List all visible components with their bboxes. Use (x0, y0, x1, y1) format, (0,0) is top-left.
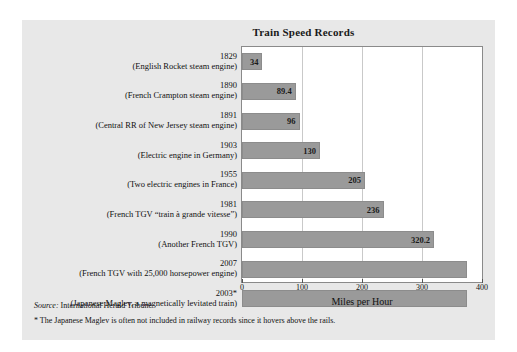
chart-title: Train Speed Records (22, 26, 495, 38)
category-description: (Electric engine in Germany) (138, 150, 237, 160)
category-description: (French TGV with 25,000 horsepower engin… (79, 268, 237, 278)
bar: 320.2 (242, 231, 434, 248)
source-label: Source: (34, 301, 59, 310)
bar-value-label: 96 (287, 116, 299, 126)
category-description: (Two electric engines in France) (127, 179, 237, 189)
bar: 89.4 (242, 83, 296, 100)
bar-value-label: 89.4 (277, 86, 295, 96)
category-year: 1891 (220, 110, 237, 120)
category-label: 1981(French TGV “train à grande vitesse”… (22, 194, 241, 224)
category-year: 2007 (220, 258, 237, 268)
category-label: 1990(Another French TGV) (22, 224, 241, 254)
bar-value-label: 130 (303, 146, 319, 156)
category-year: 2003* (216, 288, 237, 298)
x-tick-label: 300 (416, 283, 428, 292)
bar-row: 89.4 (242, 77, 482, 107)
category-year: 1903 (220, 140, 237, 150)
bar-row: 320.2 (242, 225, 482, 255)
category-axis: 1829(English Rocket steam engine)1890(Fr… (22, 46, 241, 283)
bar-row: 96 (242, 106, 482, 136)
chart-panel: Train Speed Records 1829(English Rocket … (22, 20, 495, 340)
category-label: 1903(Electric engine in Germany) (22, 135, 241, 165)
category-year: 1829 (220, 51, 237, 61)
bar-row: 205 (242, 166, 482, 196)
source-line: Source: International Herald Tribune (34, 301, 152, 310)
category-label: 1890(French Crampton steam engine) (22, 76, 241, 106)
x-axis: 0100200300400 (241, 283, 483, 297)
source-value: International Herald Tribune (59, 301, 153, 310)
category-label: 2007(French TGV with 25,000 horsepower e… (22, 253, 241, 283)
bar: 96 (242, 113, 300, 130)
bar-value-label: 205 (348, 175, 364, 185)
category-label: 1891(Central RR of New Jersey steam engi… (22, 105, 241, 135)
bar-value-label: 236 (367, 205, 383, 215)
bar-row: 34 (242, 47, 482, 77)
category-label: 1829(English Rocket steam engine) (22, 46, 241, 76)
x-tick-label: 0 (240, 283, 244, 292)
bar: 34 (242, 53, 262, 70)
bar-value-label: 34 (250, 57, 262, 67)
category-description: (Another French TGV) (158, 239, 237, 249)
bar: 205 (242, 172, 365, 189)
category-year: 1890 (220, 80, 237, 90)
category-description: (English Rocket steam engine) (132, 61, 237, 71)
category-year: 1955 (220, 169, 237, 179)
x-tick-label: 100 (296, 283, 308, 292)
bar: 236 (242, 201, 384, 218)
x-tick-label: 400 (476, 283, 488, 292)
chart-body: 1829(English Rocket steam engine)1890(Fr… (22, 46, 495, 283)
bar-value-label: 320.2 (411, 235, 433, 245)
category-description: (French Crampton steam engine) (125, 90, 237, 100)
category-description: (French TGV “train à grande vitesse”) (107, 209, 237, 219)
x-axis-label: Miles per Hour (241, 296, 483, 307)
bar-row: 236 (242, 195, 482, 225)
plot-area: 3489.496130205236320.2 (241, 46, 483, 283)
x-tick-label: 200 (356, 283, 368, 292)
category-year: 1990 (220, 229, 237, 239)
bar (242, 261, 467, 278)
category-year: 1981 (220, 199, 237, 209)
category-description: (Central RR of New Jersey steam engine) (95, 120, 237, 130)
footnote-asterisk: * The Japanese Maglev is often not inclu… (34, 316, 335, 325)
bar: 130 (242, 142, 320, 159)
category-label: 1955(Two electric engines in France) (22, 165, 241, 195)
bar-row: 130 (242, 136, 482, 166)
bar-series: 3489.496130205236320.2 (242, 47, 482, 282)
